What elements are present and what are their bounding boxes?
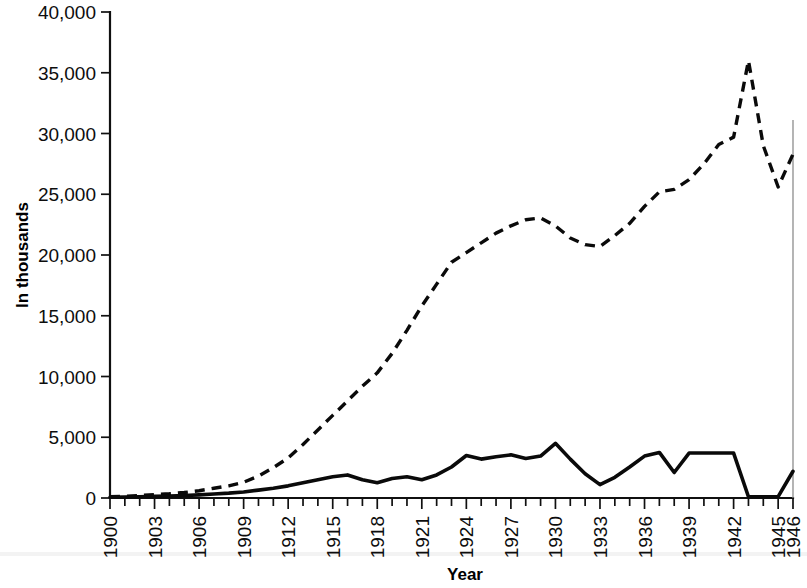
- x-tick-label: 1942: [724, 516, 745, 558]
- y-tick-label: 35,000: [38, 63, 96, 84]
- x-tick-label: 1900: [100, 516, 121, 558]
- y-tick-label: 40,000: [38, 2, 96, 23]
- y-tick-label: 10,000: [38, 367, 96, 388]
- line-chart: In thousands Year 05,00010,00015,00020,0…: [0, 0, 807, 588]
- x-tick-label: 1946: [783, 516, 804, 558]
- x-tick-label: 1906: [189, 516, 210, 558]
- x-tick-label: 1930: [545, 516, 566, 558]
- x-tick-label: 1927: [501, 516, 522, 558]
- y-axis-ticks: [101, 12, 110, 498]
- x-tick-label: 1918: [367, 516, 388, 558]
- x-tick-label: 1903: [145, 516, 166, 558]
- y-tick-label: 20,000: [38, 245, 96, 266]
- y-tick-label: 0: [85, 488, 96, 509]
- x-tick-label: 1915: [323, 516, 344, 558]
- x-tick-label: 1933: [590, 516, 611, 558]
- x-tick-label: 1909: [234, 516, 255, 558]
- y-axis-tick-labels: 05,00010,00015,00020,00025,00030,00035,0…: [38, 2, 96, 509]
- series-line-dashed: [110, 61, 793, 497]
- y-axis-title: In thousands: [13, 202, 32, 308]
- y-tick-label: 25,000: [38, 184, 96, 205]
- x-tick-label: 1939: [679, 516, 700, 558]
- x-tick-label: 1924: [456, 516, 477, 559]
- y-tick-label: 5,000: [48, 427, 96, 448]
- x-axis-title: Year: [447, 565, 483, 584]
- x-axis-ticks: [110, 498, 793, 509]
- x-tick-label: 1912: [278, 516, 299, 558]
- x-axis-tick-labels: 1900190319061909191219151918192119241927…: [100, 516, 804, 559]
- x-tick-label: 1936: [635, 516, 656, 558]
- y-tick-label: 15,000: [38, 306, 96, 327]
- chart-figure: In thousands Year 05,00010,00015,00020,0…: [0, 0, 807, 588]
- x-tick-label: 1921: [412, 516, 433, 558]
- y-tick-label: 30,000: [38, 124, 96, 145]
